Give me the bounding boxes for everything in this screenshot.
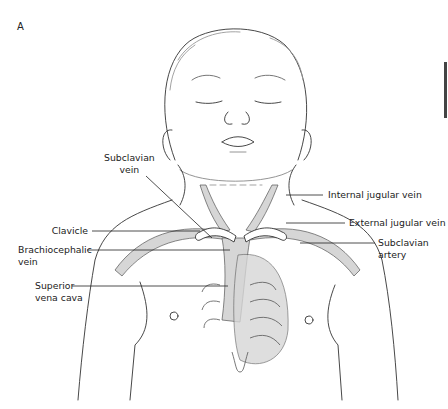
label-clavicle: Clavicle [40, 225, 88, 237]
panel-label: A [17, 21, 24, 32]
heart-region [234, 254, 288, 363]
nose [225, 112, 250, 124]
left-nipple [170, 312, 178, 320]
right-ear [302, 130, 311, 160]
left-shoulder [78, 200, 172, 400]
label-subclavian-vein: Subclavian vein [104, 152, 155, 176]
label-brachiocephalic-vein: Brachiocephalic vein [18, 244, 92, 268]
left-eye [196, 101, 222, 103]
head-outline [165, 29, 307, 160]
right-shoulder [302, 200, 398, 400]
page-edge-tab-marker [444, 62, 447, 118]
label-subclavian-artery: Subclavian artery [378, 237, 429, 261]
internal-jugular-vein-right [246, 185, 278, 232]
right-nipple [305, 316, 313, 324]
label-internal-jugular-vein: Internal jugular vein [328, 189, 422, 201]
mouth [222, 137, 254, 147]
label-superior-vena-cava: Superior vena cava [35, 280, 83, 304]
internal-jugular-vein-left [200, 185, 230, 232]
anatomy-illustration [0, 0, 448, 409]
label-external-jugular-vein: External jugular vein [349, 217, 446, 229]
right-eye [255, 101, 281, 103]
